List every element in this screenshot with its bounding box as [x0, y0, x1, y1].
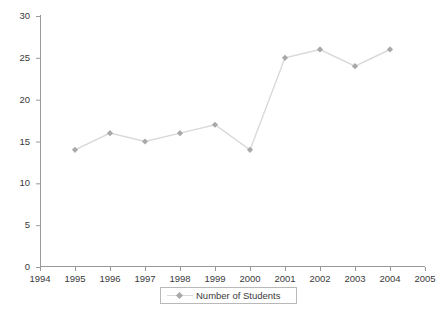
x-axis-tick-label: 1995 — [55, 274, 95, 284]
x-axis-tick-label: 1999 — [195, 274, 235, 284]
plot-area — [0, 0, 439, 318]
data-point-marker — [387, 46, 393, 52]
x-axis-tick-label: 2005 — [405, 274, 439, 284]
x-axis-tick-label: 2002 — [300, 274, 340, 284]
legend-label: Number of Students — [196, 290, 281, 301]
x-axis-ticks — [41, 267, 426, 271]
data-point-marker — [282, 55, 288, 61]
x-axis-tick-label: 2004 — [370, 274, 410, 284]
legend-item-number-of-students: Number of Students — [161, 290, 281, 301]
data-point-marker — [107, 130, 113, 136]
data-point-marker — [317, 46, 323, 52]
y-axis-tick-label: 25 — [8, 53, 30, 63]
data-point-marker — [142, 138, 148, 144]
y-axis-tick-label: 30 — [8, 11, 30, 21]
data-point-marker — [177, 130, 183, 136]
y-axis-ticks — [36, 17, 40, 268]
series-line-number-of-students — [75, 50, 390, 150]
x-axis-tick-label: 1994 — [20, 274, 60, 284]
legend-marker-icon — [167, 291, 193, 301]
y-axis-tick-label: 0 — [8, 262, 30, 272]
x-axis-tick-label: 1997 — [125, 274, 165, 284]
data-point-marker — [72, 147, 78, 153]
x-axis-tick-label: 2000 — [230, 274, 270, 284]
y-axis-tick-label: 20 — [8, 95, 30, 105]
x-axis-tick-label: 2001 — [265, 274, 305, 284]
chart-legend: Number of Students — [160, 287, 297, 304]
x-axis-tick-label: 2003 — [335, 274, 375, 284]
data-point-marker — [352, 63, 358, 69]
line-chart: 051015202530 199419951996199719981999200… — [0, 0, 439, 318]
x-axis-tick-label: 1996 — [90, 274, 130, 284]
y-axis-tick-label: 5 — [8, 220, 30, 230]
y-axis-tick-label: 15 — [8, 137, 30, 147]
y-axis-tick-label: 10 — [8, 178, 30, 188]
x-axis-tick-label: 1998 — [160, 274, 200, 284]
